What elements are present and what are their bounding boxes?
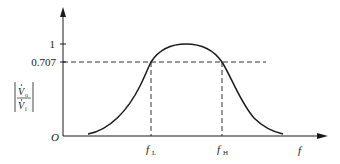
- fL-sub: L: [152, 149, 156, 157]
- dot-accent-denominator: [21, 99, 22, 100]
- y-tick-label-0707: 0.707: [31, 56, 56, 68]
- y-tick-label-1: 1: [50, 38, 56, 50]
- origin-label: O: [51, 131, 59, 143]
- fH-sub: H: [223, 149, 228, 157]
- axes: [63, 14, 320, 136]
- ylabel-denominator-sub: i: [25, 106, 27, 112]
- x-tick-label-fL: f L: [146, 143, 156, 157]
- y-axis-label: V o V i: [15, 82, 33, 112]
- y-axis-arrow-icon: [60, 7, 66, 17]
- x-tick-label-fH: f H: [217, 143, 228, 157]
- fL-f: f: [146, 143, 151, 155]
- response-curve: [88, 44, 283, 134]
- x-axis-arrow-icon: [317, 133, 328, 139]
- ylabel-numerator-sub: o: [25, 92, 28, 98]
- reference-lines: [63, 62, 266, 136]
- dot-accent-numerator: [21, 84, 22, 85]
- x-axis-label: f: [298, 144, 303, 156]
- fH-f: f: [217, 143, 222, 155]
- frequency-response-chart: 1 0.707 O V o V i f L f H f: [0, 0, 340, 164]
